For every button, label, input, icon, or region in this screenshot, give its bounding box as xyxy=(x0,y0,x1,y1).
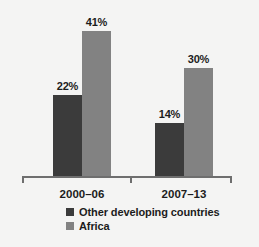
x-axis-line xyxy=(22,176,232,178)
bar-value-label-2000-06-africa: 41% xyxy=(79,16,114,28)
legend-label-africa: Africa xyxy=(79,220,110,232)
bar-value-label-2007-13-africa: 30% xyxy=(181,53,216,65)
legend: Other developing countries Africa xyxy=(66,205,219,233)
x-axis xyxy=(0,176,259,188)
bar-value-label-2000-06-other-developing-countries: 22% xyxy=(50,80,85,92)
x-axis-tick-left xyxy=(22,176,24,183)
legend-swatch-icon-other-developing-countries xyxy=(66,208,74,216)
bar-value-label-2007-13-other-developing-countries: 14% xyxy=(152,108,187,120)
legend-item-other-developing-countries: Other developing countries xyxy=(66,205,219,219)
bar-2000-06-africa xyxy=(82,31,111,178)
bar-chart: 22% 41% 14% 30% 2000–06 2007–13 Other de… xyxy=(0,0,259,247)
x-axis-category-label-2000-06: 2000–06 xyxy=(47,188,117,200)
legend-swatch-icon-africa xyxy=(66,222,74,230)
legend-item-africa: Africa xyxy=(66,219,219,233)
x-axis-category-label-2007-13: 2007–13 xyxy=(149,188,219,200)
bar-2007-13-other-developing-countries xyxy=(155,123,184,178)
plot-area: 22% 41% 14% 30% xyxy=(0,0,259,178)
bar-2007-13-africa xyxy=(184,68,213,178)
x-axis-tick-right xyxy=(230,176,232,183)
x-axis-tick-middle xyxy=(130,176,132,183)
bar-2000-06-other-developing-countries xyxy=(53,95,82,178)
legend-label-other-developing-countries: Other developing countries xyxy=(79,206,219,218)
